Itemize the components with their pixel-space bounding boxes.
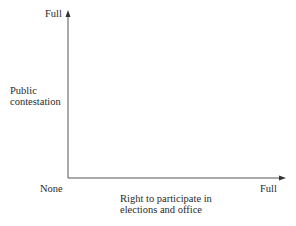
x-axis-label-line2: elections and office	[120, 204, 202, 216]
x-axis-arrow-icon	[279, 176, 286, 181]
y-axis-arrow-icon	[66, 10, 71, 17]
origin-label: None	[40, 183, 63, 195]
x-axis-end-label: Full	[260, 183, 277, 195]
y-axis-label-line2: contestation	[10, 96, 61, 108]
y-axis-top-label: Full	[45, 8, 62, 20]
